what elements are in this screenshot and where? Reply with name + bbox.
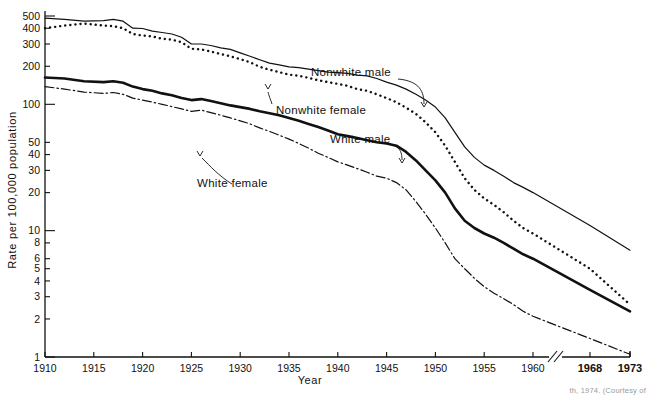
x-axis-tick-label: 1968 — [578, 362, 602, 374]
x-axis-tick-label: 1910 — [33, 362, 57, 374]
annotation-arrowhead — [265, 84, 271, 89]
x-axis-tick-label: 1935 — [277, 362, 301, 374]
y-axis-tick-label: 1 — [34, 351, 40, 363]
y-axis-tick-label: 30 — [28, 164, 40, 176]
x-axis-tick-label: 1930 — [229, 362, 253, 374]
annotation-arrowhead — [197, 151, 203, 156]
y-axis-tick-label: 20 — [28, 186, 40, 198]
y-axis-tick-label: 2 — [34, 313, 40, 325]
series-annotation-label: White female — [197, 177, 268, 189]
figure-caption: th, 1974. (Courtesy of — [569, 386, 646, 395]
x-axis-tick-label: 1950 — [424, 362, 448, 374]
y-axis-tick-label: 3 — [34, 290, 40, 302]
axis-lines — [45, 11, 630, 362]
y-axis-tick-label: 4 — [34, 275, 40, 287]
annotation-leader-line — [385, 143, 402, 160]
series-line-white-female — [45, 87, 630, 355]
series-annotation-label: Nonwhite male — [311, 66, 391, 78]
x-axis-tick-label: 1955 — [473, 362, 497, 374]
y-axis-tick-label: 40 — [28, 148, 40, 160]
series-annotation-label: White male — [330, 133, 391, 145]
y-axis-tick-label: 400 — [22, 22, 40, 34]
annotation-leader-line — [268, 92, 272, 104]
y-axis-tick-label: 10 — [28, 224, 40, 236]
y-axis-tick-label: 500 — [22, 10, 40, 22]
y-axis-label: Rate per 100,000 population — [6, 111, 18, 269]
x-axis-tick-label: 1945 — [375, 362, 399, 374]
y-axis-tick-label: 6 — [34, 252, 40, 264]
y-axis-tick-label: 8 — [34, 236, 40, 248]
x-axis-tick-label: 1925 — [180, 362, 204, 374]
series-annotation-label: Nonwhite female — [276, 104, 366, 116]
x-axis-tick-label: 1960 — [521, 362, 545, 374]
y-axis-tick-label: 50 — [28, 136, 40, 148]
x-axis-tick-label: 1915 — [82, 362, 106, 374]
x-axis-tick-group: 1910191519201925193019351940194519501955… — [33, 352, 642, 374]
x-axis-tick-label: 1940 — [326, 362, 350, 374]
y-axis-tick-label: 100 — [22, 98, 40, 110]
x-axis-label: Year — [298, 374, 323, 386]
x-axis-tick-label: 1920 — [131, 362, 155, 374]
y-axis-tick-group: 12345681020304050100200300400500 — [22, 10, 55, 363]
y-axis-tick-label: 300 — [22, 38, 40, 50]
x-axis-tick-label: 1973 — [618, 362, 642, 374]
y-axis-tick-label: 200 — [22, 60, 40, 72]
